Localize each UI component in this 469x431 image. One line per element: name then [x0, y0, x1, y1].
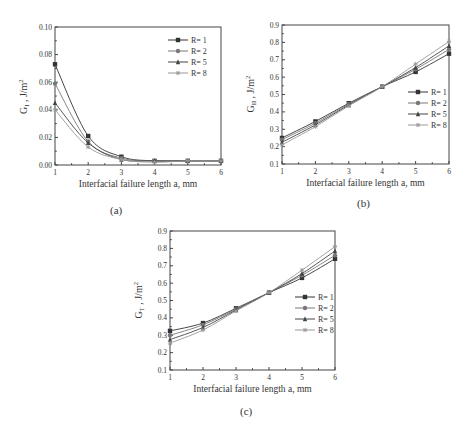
legend-label: R= 2: [431, 99, 447, 108]
x-axis-label: Interfacial failure length a, mm: [306, 178, 425, 188]
marker-circle-icon: [303, 306, 307, 310]
marker-circle-icon: [168, 333, 172, 337]
y-tick-label: 0.3: [158, 331, 168, 340]
legend-label: R= 1: [431, 88, 447, 97]
y-tick-label: 0.7: [270, 55, 280, 64]
series-r5: [53, 100, 223, 163]
y-tick-label: 0.2: [270, 142, 280, 151]
y-tick-label: 0.9: [158, 227, 168, 236]
legend-label: R= 8: [191, 69, 207, 78]
chart-c: 1234560.10.20.30.40.50.60.70.80.9Interfa…: [110, 220, 350, 410]
series-r5: [168, 248, 337, 342]
series-line: [55, 84, 221, 161]
series-line: [170, 259, 335, 331]
x-tick-label: 5: [300, 373, 304, 382]
legend-label: R= 8: [318, 326, 334, 335]
caption-c: (c): [240, 405, 252, 417]
marker-square-icon: [303, 295, 307, 299]
x-tick-label: 4: [267, 373, 271, 382]
x-tick-label: 6: [333, 373, 337, 382]
y-tick-label: 0.6: [158, 279, 168, 288]
marker-star-icon: [267, 290, 271, 294]
x-tick-label: 3: [234, 373, 238, 382]
y-tick-label: 0.00: [39, 161, 52, 170]
marker-star-icon: [447, 39, 451, 43]
marker-star-icon: [303, 328, 307, 332]
marker-star-icon: [300, 268, 304, 272]
legend-label: R= 5: [318, 315, 334, 324]
y-axis-label: GI , J/m2: [17, 79, 30, 114]
series-line: [55, 103, 221, 161]
chart-b: 1234560.10.20.30.40.50.60.70.80.9Interfa…: [240, 0, 469, 200]
x-tick-label: 4: [380, 167, 384, 176]
y-tick-label: 0.8: [270, 38, 280, 47]
marker-star-icon: [176, 71, 180, 75]
series-line: [55, 110, 221, 162]
marker-square-icon: [447, 51, 451, 55]
y-tick-label: 0.04: [39, 105, 52, 114]
series-r8: [280, 39, 451, 147]
y-tick-label: 0.6: [270, 73, 280, 82]
x-tick-label: 4: [153, 168, 157, 177]
series-r1: [168, 257, 337, 334]
legend: R= 1R= 2R= 5R= 8: [168, 36, 207, 78]
chart-panel-c: 1234560.10.20.30.40.50.60.70.80.9Interfa…: [110, 220, 350, 431]
chart-panel-b: 1234560.10.20.30.40.50.60.70.80.9Interfa…: [240, 0, 469, 220]
marker-star-icon: [416, 123, 420, 127]
x-tick-label: 6: [219, 168, 223, 177]
marker-star-icon: [168, 341, 172, 345]
marker-star-icon: [413, 62, 417, 66]
y-tick-label: 0.1: [270, 160, 280, 169]
y-tick-label: 0.02: [39, 133, 52, 142]
marker-square-icon: [86, 134, 90, 138]
marker-circle-icon: [176, 49, 180, 53]
x-tick-label: 1: [280, 167, 284, 176]
y-tick-label: 0.06: [39, 78, 52, 87]
legend-label: R= 2: [191, 47, 207, 56]
marker-square-icon: [416, 90, 420, 94]
y-tick-label: 0.5: [158, 296, 168, 305]
marker-star-icon: [186, 159, 190, 163]
y-tick-label: 0.7: [158, 261, 168, 270]
marker-circle-icon: [333, 253, 337, 257]
marker-star-icon: [119, 157, 123, 161]
series-r5: [280, 43, 451, 144]
legend-label: R= 5: [191, 58, 207, 67]
marker-star-icon: [201, 328, 205, 332]
series-r8: [53, 108, 223, 165]
legend: R= 1R= 2R= 5R= 8: [408, 88, 447, 130]
y-tick-label: 0.4: [158, 313, 168, 322]
chart-panel-a: 1234560.000.020.040.060.080.10Interfacia…: [0, 0, 235, 220]
legend: R= 1R= 2R= 5R= 8: [295, 293, 334, 335]
y-tick-label: 0.1: [158, 366, 168, 375]
y-tick-label: 0.3: [270, 125, 280, 134]
marker-square-icon: [53, 62, 57, 66]
marker-star-icon: [53, 108, 57, 112]
x-tick-label: 5: [186, 168, 190, 177]
series-r2: [53, 81, 223, 163]
chart-a: 1234560.000.020.040.060.080.10Interfacia…: [0, 0, 235, 200]
y-tick-label: 0.8: [158, 244, 168, 253]
marker-square-icon: [168, 329, 172, 333]
x-tick-label: 1: [168, 373, 172, 382]
marker-circle-icon: [53, 81, 57, 85]
y-tick-label: 0.10: [39, 23, 52, 32]
legend-label: R= 2: [318, 304, 334, 313]
marker-star-icon: [313, 124, 317, 128]
legend-label: R= 8: [431, 121, 447, 130]
marker-star-icon: [219, 159, 223, 163]
y-tick-label: 0.9: [270, 21, 280, 30]
series-line: [170, 247, 335, 343]
marker-star-icon: [86, 145, 90, 149]
y-tick-label: 0.4: [270, 107, 280, 116]
y-tick-label: 0.5: [270, 90, 280, 99]
series-r2: [168, 253, 337, 337]
x-tick-label: 2: [86, 168, 90, 177]
x-axis-label: Interfacial failure length a, mm: [79, 179, 198, 189]
marker-triangle-icon: [447, 43, 451, 48]
legend-label: R= 1: [191, 36, 207, 45]
x-tick-label: 3: [347, 167, 351, 176]
series-line: [170, 255, 335, 335]
x-axis-label: Interfacial failure length a, mm: [193, 384, 312, 394]
y-axis-label: GT , J/m2: [132, 282, 145, 318]
